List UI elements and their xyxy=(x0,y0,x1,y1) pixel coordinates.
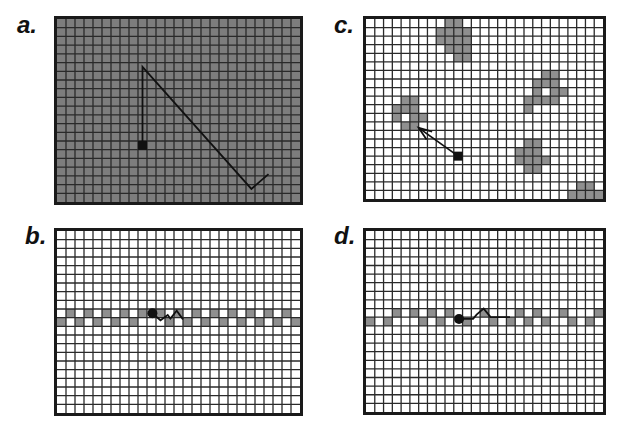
resource-patch xyxy=(463,45,472,54)
resource-patch xyxy=(454,19,463,28)
resource-patch xyxy=(515,309,524,318)
resource-patch xyxy=(542,317,551,326)
resource-patch xyxy=(550,70,559,79)
resource-patch xyxy=(550,88,559,97)
resource-patch xyxy=(57,318,66,327)
resource-patch xyxy=(454,53,463,62)
resource-patch xyxy=(183,318,192,327)
resource-patch xyxy=(489,317,498,326)
resource-patch xyxy=(577,182,586,191)
resource-patch xyxy=(273,318,282,327)
resource-patch xyxy=(291,318,300,327)
resource-patch xyxy=(264,309,273,318)
resource-patch xyxy=(542,156,551,165)
resource-patch xyxy=(559,309,568,318)
resource-patch xyxy=(210,309,219,318)
start-marker-square xyxy=(454,152,463,161)
resource-patch xyxy=(120,309,129,318)
resource-patch xyxy=(436,317,445,326)
resource-patch xyxy=(463,53,472,62)
resource-patch xyxy=(228,309,237,318)
resource-patch xyxy=(93,318,102,327)
resource-patch xyxy=(219,318,228,327)
resource-patch xyxy=(533,88,542,97)
resource-patch xyxy=(542,70,551,79)
resource-patch xyxy=(568,317,577,326)
resource-patch xyxy=(282,309,291,318)
resource-patch xyxy=(533,156,542,165)
resource-patch xyxy=(524,156,533,165)
resource-patch xyxy=(138,309,147,318)
resource-patch xyxy=(524,148,533,157)
resource-patch xyxy=(533,309,542,318)
resource-patch xyxy=(410,96,419,105)
resource-patch xyxy=(84,309,93,318)
resource-patch xyxy=(410,122,419,131)
resource-patch xyxy=(410,309,419,318)
resource-patch xyxy=(515,156,524,165)
resource-patch xyxy=(419,113,428,122)
resource-patch xyxy=(585,190,594,199)
resource-patch xyxy=(192,309,201,318)
panel-c-label: c. xyxy=(334,11,354,39)
resource-patch xyxy=(410,105,419,114)
panel-d-grid xyxy=(363,228,606,415)
resource-patch xyxy=(401,96,410,105)
start-marker-circle xyxy=(147,308,157,318)
resource-patch xyxy=(533,148,542,157)
resource-patch xyxy=(75,318,84,327)
resource-patch xyxy=(568,190,577,199)
resource-patch xyxy=(533,96,542,105)
resource-patch xyxy=(445,36,454,45)
panel-b-grid xyxy=(54,228,303,416)
resource-patch xyxy=(445,28,454,37)
resource-patch xyxy=(445,19,454,28)
resource-patch xyxy=(559,88,568,97)
resource-patch xyxy=(524,105,533,114)
resource-patch xyxy=(533,79,542,88)
resource-patch xyxy=(255,318,264,327)
resource-patch xyxy=(585,317,594,326)
resource-patch xyxy=(524,96,533,105)
resource-patch xyxy=(542,96,551,105)
resource-patch xyxy=(445,309,454,318)
resource-patch xyxy=(392,309,401,318)
resource-patch xyxy=(542,79,551,88)
resource-patch xyxy=(401,122,410,131)
resource-patch xyxy=(585,182,594,191)
resource-patch xyxy=(111,318,120,327)
panel-b-label: b. xyxy=(25,222,46,250)
panel-a-grid xyxy=(54,16,303,205)
resource-patch xyxy=(463,28,472,37)
resource-patch xyxy=(533,165,542,174)
panel-d-label: d. xyxy=(334,222,355,250)
resource-patch xyxy=(524,317,533,326)
resource-patch xyxy=(410,113,419,122)
resource-patch xyxy=(577,190,586,199)
resource-patch xyxy=(237,318,246,327)
resource-patch xyxy=(506,317,515,326)
start-marker-square xyxy=(138,141,147,150)
resource-patch xyxy=(515,148,524,157)
panel-background xyxy=(54,228,303,416)
resource-patch xyxy=(384,317,393,326)
resource-patch xyxy=(550,96,559,105)
resource-patch xyxy=(594,309,603,318)
resource-patch xyxy=(129,318,138,327)
resource-patch xyxy=(436,28,445,37)
resource-patch xyxy=(366,317,375,326)
resource-patch xyxy=(201,318,210,327)
panel-c-grid xyxy=(363,16,606,202)
resource-patch xyxy=(66,309,75,318)
resource-patch xyxy=(427,309,436,318)
resource-patch xyxy=(550,79,559,88)
resource-patch xyxy=(102,309,111,318)
resource-patch xyxy=(524,139,533,148)
start-marker-circle xyxy=(454,314,464,324)
resource-patch xyxy=(445,45,454,54)
resource-patch xyxy=(392,113,401,122)
resource-patch xyxy=(246,309,255,318)
resource-patch xyxy=(594,190,603,199)
resource-patch xyxy=(454,28,463,37)
resource-patch xyxy=(454,45,463,54)
